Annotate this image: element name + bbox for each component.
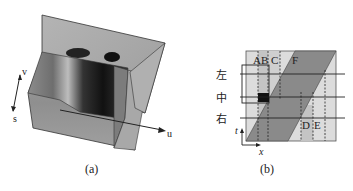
row-label-right: 右 <box>216 112 227 126</box>
u-axis-arrow-icon <box>158 127 166 133</box>
label-f: F <box>292 54 298 66</box>
caption-b: (b) <box>260 162 274 177</box>
label-d: D <box>302 119 310 131</box>
row-label-middle: 中 <box>216 92 227 105</box>
volume-render-graphic: v s u <box>0 0 200 191</box>
s-axis-arrow-icon <box>11 106 16 112</box>
panel-b-schematic-figure: A B C F D E 左 中 右 t x (b) <box>200 0 353 191</box>
u-axis-label: u <box>167 128 172 139</box>
schematic-graphic: A B C F D E 左 中 右 t x <box>200 0 353 191</box>
label-c: C <box>271 54 278 66</box>
label-e: E <box>314 119 321 131</box>
row-label-left: 左 <box>216 69 227 82</box>
caption-a: (a) <box>85 162 98 177</box>
t-axis-label: t <box>235 125 238 136</box>
label-b: B <box>261 54 268 66</box>
s-axis-label: s <box>13 113 17 124</box>
t-axis-arrow-icon <box>240 128 244 133</box>
marker-square <box>258 93 269 102</box>
panel-a-volume-figure: v s u (a) <box>0 0 200 191</box>
surface-feature <box>104 52 120 62</box>
surface-feature <box>66 48 90 58</box>
s-axis-line <box>13 75 20 111</box>
x-axis-label: x <box>258 146 264 157</box>
v-axis-label: v <box>22 66 27 77</box>
label-a: A <box>253 54 261 66</box>
